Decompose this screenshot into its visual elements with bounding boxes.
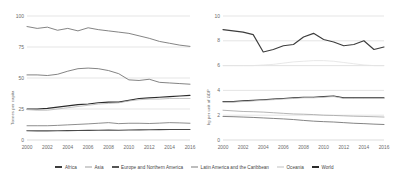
legend-swatch-icon	[312, 166, 319, 168]
series-line	[27, 68, 190, 84]
series-line	[223, 116, 384, 124]
legend-item-label: Latin America and the Caribbean	[201, 165, 269, 170]
legend-item[interactable]: World	[312, 165, 334, 170]
chart-panel-right: kg per unit of GDP 0246810 2000200220042…	[195, 0, 389, 155]
legend-swatch-icon	[55, 166, 62, 168]
legend-swatch-icon	[85, 166, 92, 168]
chart-legend: AfricaAsiaEurope and Northern AmericaLat…	[0, 157, 389, 177]
series-line	[27, 95, 190, 109]
legend-swatch-icon	[191, 166, 198, 168]
series-line	[27, 129, 190, 130]
legend-item-label: Europe and Northern America	[121, 165, 183, 170]
series-line	[27, 123, 190, 126]
legend-item[interactable]: Africa	[55, 165, 77, 170]
legend-item[interactable]: Latin America and the Caribbean	[191, 165, 269, 170]
legend-item[interactable]: Europe and Northern America	[112, 165, 184, 170]
chart-panel-left: Tonnes per capita 0255075100 20002002200…	[0, 0, 195, 155]
legend-item-label: Oceania	[286, 165, 303, 170]
legend-item[interactable]: Oceania	[277, 165, 304, 170]
legend-swatch-icon	[112, 166, 119, 168]
plot-area-right	[195, 0, 389, 155]
series-line	[27, 98, 190, 110]
series-line	[27, 27, 190, 47]
legend-item[interactable]: Asia	[85, 165, 104, 170]
series-line	[223, 110, 384, 117]
legend-item-label: Asia	[94, 165, 103, 170]
plot-area-left	[0, 0, 195, 155]
legend-item-label: Africa	[65, 165, 77, 170]
legend-item-label: World	[321, 165, 333, 170]
series-line	[223, 61, 384, 66]
legend-swatch-icon	[277, 166, 284, 168]
